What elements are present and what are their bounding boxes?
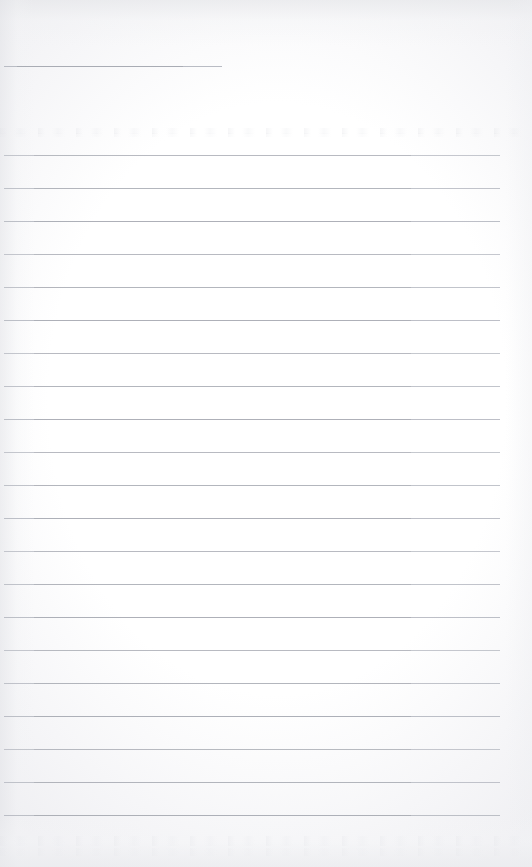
ruled-line (4, 188, 500, 189)
ruled-line (4, 551, 500, 552)
ruled-line (4, 452, 500, 453)
ruled-line (4, 485, 500, 486)
ruled-line (4, 683, 500, 684)
ruled-line (4, 749, 500, 750)
ruled-line (4, 815, 500, 816)
ruled-line (4, 287, 500, 288)
ruled-line (4, 353, 500, 354)
ruled-line (4, 386, 500, 387)
ruled-line (4, 716, 500, 717)
ruled-line (4, 782, 500, 783)
ruled-line (4, 320, 500, 321)
ruled-lines-layer (0, 0, 532, 867)
ruled-line (4, 650, 500, 651)
ruled-line (4, 155, 500, 156)
ruled-line (4, 221, 500, 222)
ruled-line (4, 584, 500, 585)
ruled-line (4, 617, 500, 618)
ruled-line (4, 419, 500, 420)
ruled-line (4, 254, 500, 255)
ruled-line (4, 518, 500, 519)
scanned-page (0, 0, 532, 867)
